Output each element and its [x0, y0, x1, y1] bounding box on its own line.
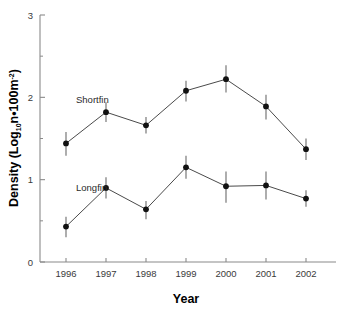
- data-point-marker[interactable]: [263, 103, 269, 109]
- data-point-marker[interactable]: [143, 122, 149, 128]
- data-point-marker[interactable]: [63, 224, 69, 230]
- x-tick-label: 2000: [215, 268, 236, 279]
- data-point-marker[interactable]: [103, 109, 109, 115]
- x-tick-label: 1997: [95, 268, 116, 279]
- y-tick-label: 1: [28, 174, 33, 185]
- data-point-marker[interactable]: [183, 164, 189, 170]
- series-label-longfin: Longfin: [76, 182, 107, 193]
- data-point-marker[interactable]: [223, 183, 229, 189]
- x-tick-label: 1999: [175, 268, 196, 279]
- x-axis-title: Year: [173, 292, 200, 306]
- chart-axes: [40, 15, 336, 262]
- chart-figure: 01231996199719981999200020012002Shortfin…: [0, 0, 344, 315]
- data-point-marker[interactable]: [143, 206, 149, 212]
- y-axis-title: Density (Log10n•100m-2): [7, 69, 22, 207]
- data-point-marker[interactable]: [303, 196, 309, 202]
- x-tick-label: 2002: [295, 268, 316, 279]
- series-label-shortfin: Shortfin: [76, 94, 109, 105]
- data-point-marker[interactable]: [263, 183, 269, 189]
- y-tick-label: 0: [28, 257, 33, 268]
- x-tick-label: 2001: [255, 268, 276, 279]
- series-shortfin: Shortfin: [63, 65, 309, 160]
- y-axis-ticks: 0123: [28, 10, 45, 268]
- x-tick-label: 1998: [135, 268, 156, 279]
- data-point-marker[interactable]: [303, 146, 309, 152]
- data-point-marker[interactable]: [223, 76, 229, 82]
- density-line-chart: 01231996199719981999200020012002Shortfin…: [0, 0, 344, 315]
- data-point-marker[interactable]: [63, 141, 69, 147]
- x-tick-label: 1996: [55, 268, 76, 279]
- x-axis-ticks: 1996199719981999200020012002: [55, 258, 316, 279]
- y-tick-label: 3: [28, 10, 33, 21]
- series-longfin: Longfin: [63, 156, 309, 238]
- y-tick-label: 2: [28, 92, 33, 103]
- data-point-marker[interactable]: [183, 88, 189, 94]
